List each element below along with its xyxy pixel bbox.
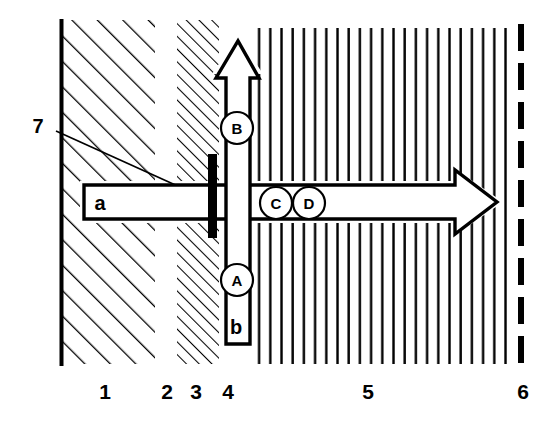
marker-d-label: D xyxy=(304,195,315,212)
marker-b: B xyxy=(221,112,253,144)
vertical-arrow-label: b xyxy=(230,316,242,338)
thick-black-bar xyxy=(208,154,217,238)
zone-axis-label-3: 3 xyxy=(190,380,202,403)
zone-axis-label-6: 6 xyxy=(517,380,529,403)
zone-axis-label-5: 5 xyxy=(362,380,374,403)
marker-a-label: A xyxy=(232,272,243,289)
zone-axis-label-2: 2 xyxy=(161,380,173,403)
callout-7-label: 7 xyxy=(32,115,43,137)
marker-c: C xyxy=(260,187,292,219)
technical-diagram: A B C D a b 7 1 2 3 4 5 6 xyxy=(0,0,550,423)
zone-axis-label-1: 1 xyxy=(99,380,111,403)
diagram-canvas: A B C D a b 7 1 2 3 4 5 6 xyxy=(0,0,550,423)
horizontal-arrow-label: a xyxy=(94,192,106,214)
marker-c-label: C xyxy=(271,195,282,212)
marker-d: D xyxy=(293,187,325,219)
marker-b-label: B xyxy=(232,120,243,137)
marker-a: A xyxy=(221,264,253,296)
zone-axis-label-4: 4 xyxy=(222,380,234,403)
